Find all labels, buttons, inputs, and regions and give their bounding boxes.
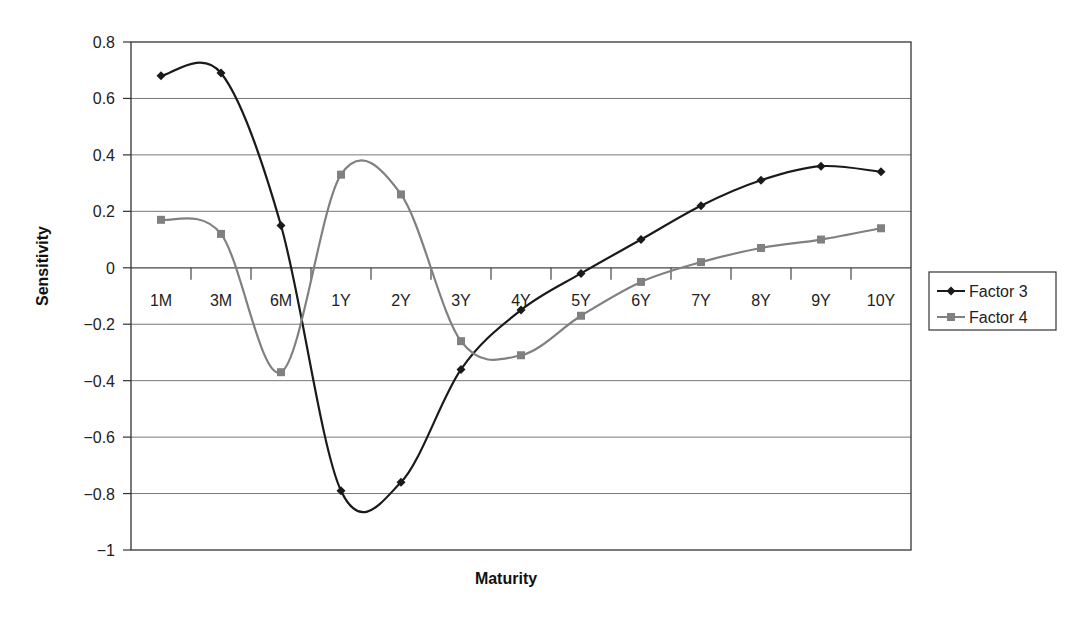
legend: Factor 3Factor 4	[929, 272, 1056, 330]
square-marker	[337, 171, 345, 179]
x-category-label: 8Y	[751, 292, 771, 309]
diamond-marker	[817, 162, 826, 171]
square-marker	[217, 230, 225, 238]
square-marker	[397, 190, 405, 198]
x-category-label: 6M	[270, 292, 292, 309]
series-lines	[157, 63, 886, 513]
legend-label: Factor 4	[969, 309, 1028, 326]
x-category-label: 2Y	[391, 292, 411, 309]
x-category-label: 7Y	[691, 292, 711, 309]
square-marker	[637, 278, 645, 286]
square-marker	[877, 224, 885, 232]
y-tick-label: 0.4	[93, 147, 115, 164]
square-marker	[157, 216, 165, 224]
x-category-label: 1M	[150, 292, 172, 309]
y-tick-label: 0	[106, 260, 115, 277]
series-factor-3	[157, 63, 886, 513]
diamond-marker	[637, 235, 646, 244]
diamond-marker	[277, 221, 286, 230]
diamond-marker	[757, 176, 766, 185]
y-tick-label: −1	[97, 542, 115, 559]
square-marker	[757, 244, 765, 252]
y-axis-title: Sensitivity	[34, 226, 51, 306]
square-marker	[697, 258, 705, 266]
y-tick-label: 0.2	[93, 203, 115, 220]
square-marker	[277, 368, 285, 376]
diamond-marker	[877, 167, 886, 176]
x-category-label: 3Y	[451, 292, 471, 309]
square-marker	[947, 313, 955, 321]
legend-label: Factor 3	[969, 283, 1028, 300]
square-marker	[457, 337, 465, 345]
x-category-label: 3M	[210, 292, 232, 309]
x-category-label: 5Y	[571, 292, 591, 309]
diamond-marker	[577, 269, 586, 278]
square-marker	[577, 312, 585, 320]
x-category-label: 6Y	[631, 292, 651, 309]
y-axis-ticks: 0.80.60.40.20−0.2−0.4−0.6−0.8−1	[83, 34, 131, 559]
series-line	[161, 63, 881, 513]
y-tick-label: 0.8	[93, 34, 115, 51]
y-tick-label: −0.4	[83, 373, 115, 390]
series-line	[161, 160, 881, 372]
y-tick-label: −0.8	[83, 486, 115, 503]
diamond-marker	[697, 201, 706, 210]
x-category-label: 1Y	[331, 292, 351, 309]
x-category-label: 9Y	[811, 292, 831, 309]
x-category-label: 10Y	[867, 292, 896, 309]
square-marker	[817, 236, 825, 244]
y-tick-label: −0.6	[83, 429, 115, 446]
square-marker	[517, 351, 525, 359]
y-tick-label: 0.6	[93, 90, 115, 107]
x-axis-title: Maturity	[475, 570, 537, 587]
diamond-marker	[157, 71, 166, 80]
y-tick-label: −0.2	[83, 316, 115, 333]
line-chart: 0.80.60.40.20−0.2−0.4−0.6−0.8−1 1M3M6M1Y…	[0, 0, 1091, 621]
